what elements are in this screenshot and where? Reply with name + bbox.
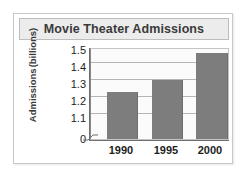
axis-break-icon — [82, 126, 98, 142]
bar-1990 — [107, 92, 138, 139]
y-axis-title-line2: (billions) — [27, 28, 38, 68]
x-axis-line — [90, 140, 229, 141]
bar-2000 — [196, 53, 228, 139]
y-axis-title-line1: Admissions — [27, 68, 38, 122]
y-axis-tick-labels: 1.5 1.4 1.3 1.2 1.1 0 — [58, 14, 86, 165]
x-tick-label-1990: 1990 — [99, 144, 143, 157]
bar-1995 — [152, 80, 183, 139]
y-tick-label: 1.5 — [60, 45, 86, 56]
y-tick-label: 1.3 — [60, 79, 86, 90]
plot-area — [90, 48, 229, 140]
y-axis-title: Admissions (billions) — [19, 36, 45, 114]
x-tick-label-2000: 2000 — [188, 144, 232, 157]
y-tick-label: 1.4 — [60, 62, 86, 73]
y-tick-label: 1.1 — [60, 113, 86, 124]
x-axis-tick-labels: 1990 1995 2000 — [90, 144, 229, 160]
chart-title-bar: Movie Theater Admissions — [19, 18, 229, 40]
chart-figure: Movie Theater Admissions 1.5 1.4 1.3 1.2… — [13, 13, 233, 164]
x-tick-label-1995: 1995 — [144, 144, 188, 157]
y-tick-label: 1.2 — [60, 96, 86, 107]
